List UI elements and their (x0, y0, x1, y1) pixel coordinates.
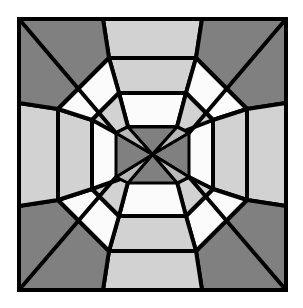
patch-ring3-west (19, 103, 58, 206)
patch-ring3-north (103, 19, 202, 58)
patch-ring3-south (103, 251, 202, 290)
octagonal-quilt-pattern (0, 0, 303, 308)
patch-ring2-west (58, 109, 92, 200)
patch-ring3-east (247, 103, 286, 206)
center-octagon-group (116, 127, 189, 183)
figure-root: Octagonal Radial Quilt Pattern Square ti… (0, 0, 303, 308)
patch-ring2-south (109, 216, 196, 251)
patch-ring2-north (109, 58, 196, 93)
patch-ring1-north (119, 93, 186, 127)
patch-ring1-south (119, 182, 186, 216)
patch-ring2-east (213, 109, 247, 200)
